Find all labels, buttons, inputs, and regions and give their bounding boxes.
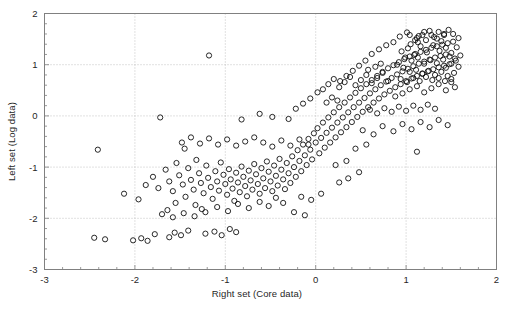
svg-text:1: 1 [403,274,408,285]
plot-canvas: -3-2-1012-3-2-1012 [0,0,514,315]
svg-text:-1: -1 [221,274,229,285]
plot-frame [45,14,497,270]
figure-caption [6,304,336,313]
svg-text:2: 2 [494,274,499,285]
svg-text:-2: -2 [131,274,139,285]
svg-text:-3: -3 [40,274,48,285]
y-axis-title: Left set (Log data) [6,79,17,205]
svg-text:-3: -3 [29,264,37,275]
gridlines [45,14,497,270]
data-points [92,27,463,243]
svg-text:-2: -2 [29,213,37,224]
x-axis-title: Right set (Core data) [0,288,514,299]
svg-text:0: 0 [32,110,37,121]
axis-ticks [45,14,497,270]
svg-text:2: 2 [32,8,37,19]
svg-text:0: 0 [313,274,318,285]
scatter-plot-figure: -3-2-1012-3-2-1012 Right set (Core data)… [0,0,514,315]
svg-text:-1: -1 [29,162,37,173]
svg-text:1: 1 [32,59,37,70]
